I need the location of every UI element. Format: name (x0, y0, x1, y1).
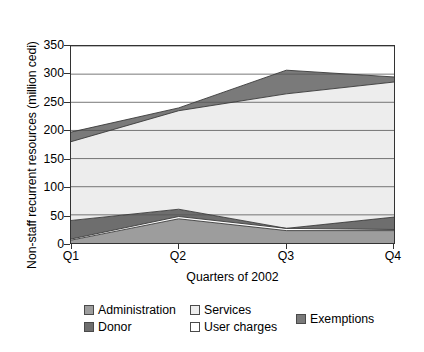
y-tick-label-50: 50 (20, 210, 64, 222)
y-tick-label-200: 200 (20, 124, 64, 136)
legend-item-donor[interactable]: Donor (84, 320, 132, 334)
x-tick-label-q2: Q2 (158, 249, 198, 263)
legend-item-user-charges[interactable]: User charges (190, 320, 277, 334)
legend-label-donor: Donor (98, 320, 132, 334)
y-tick-mark-0 (64, 244, 70, 245)
legend-item-administration[interactable]: Administration (84, 303, 176, 317)
legend-item-exemptions[interactable]: Exemptions (296, 312, 374, 326)
y-tick-label-100: 100 (20, 181, 64, 193)
area-series-services (71, 82, 394, 228)
legend-swatch-exemptions (296, 314, 306, 324)
y-tick-label-150: 150 (20, 153, 64, 165)
plot-area (70, 45, 395, 244)
legend-label-administration: Administration (98, 303, 176, 317)
legend-swatch-services (190, 305, 200, 315)
legend-label-services: Services (204, 303, 251, 317)
chart-legend: Administration Donor Services User charg… (84, 303, 414, 337)
legend-swatch-administration (84, 305, 94, 315)
stacked-area-svg (71, 46, 394, 243)
area-chart: Non-staff recurrent resources (million c… (0, 0, 424, 352)
legend-label-user-charges: User charges (204, 320, 277, 334)
y-tick-label-250: 250 (20, 96, 64, 108)
legend-swatch-donor (84, 322, 94, 332)
legend-swatch-user-charges (190, 322, 200, 332)
y-tick-label-350: 350 (20, 39, 64, 51)
x-tick-label-q1: Q1 (51, 249, 91, 263)
x-tick-label-q3: Q3 (266, 249, 306, 263)
y-tick-label-300: 300 (20, 67, 64, 79)
area-series-group (71, 70, 394, 243)
x-axis-title: Quarters of 2002 (70, 270, 395, 284)
x-tick-label-q4: Q4 (373, 249, 413, 263)
legend-item-services[interactable]: Services (190, 303, 251, 317)
legend-label-exemptions: Exemptions (310, 312, 374, 326)
